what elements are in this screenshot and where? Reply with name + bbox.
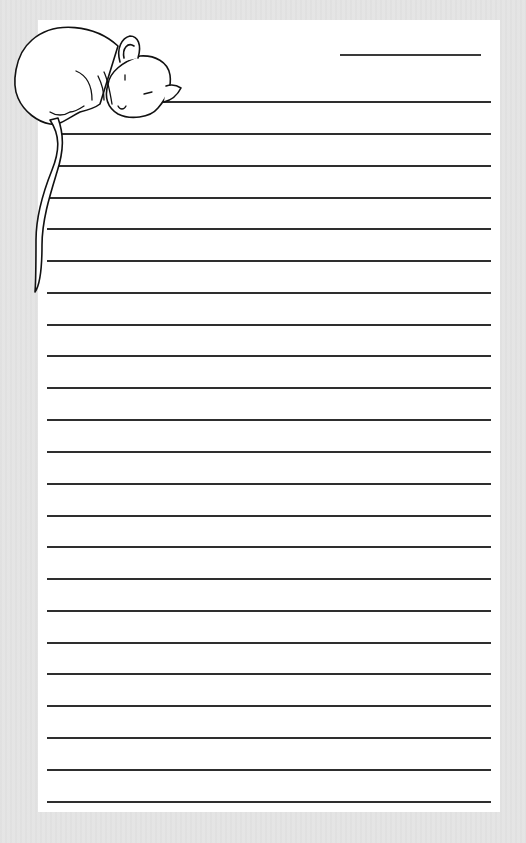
writing-line	[58, 133, 491, 135]
writing-line	[47, 260, 491, 262]
writing-line	[47, 355, 491, 357]
writing-line	[47, 610, 491, 612]
stationery-paper	[38, 20, 500, 812]
writing-line	[47, 642, 491, 644]
writing-line	[47, 769, 491, 771]
writing-line	[47, 483, 491, 485]
writing-line	[58, 165, 491, 167]
writing-line	[47, 737, 491, 739]
writing-line	[47, 801, 491, 803]
writing-line	[47, 419, 491, 421]
writing-line	[47, 451, 491, 453]
writing-line	[47, 673, 491, 675]
writing-line	[47, 197, 491, 199]
writing-line	[47, 705, 491, 707]
writing-line	[47, 387, 491, 389]
writing-line	[160, 101, 491, 103]
writing-line	[47, 292, 491, 294]
writing-line	[47, 578, 491, 580]
writing-line	[47, 324, 491, 326]
writing-line	[47, 515, 491, 517]
writing-line	[47, 546, 491, 548]
header-line	[340, 54, 481, 56]
writing-line	[47, 228, 491, 230]
